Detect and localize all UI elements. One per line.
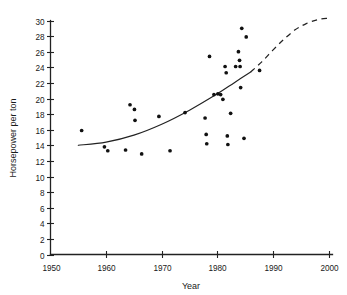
y-tick-label: 16 (35, 127, 45, 136)
data-point (157, 115, 161, 119)
data-point (133, 108, 137, 112)
y-tick-label: 26 (35, 49, 45, 58)
data-point (124, 148, 128, 152)
data-point (225, 134, 229, 138)
x-tick-label: 1980 (208, 264, 227, 273)
x-tick-label: 1990 (264, 264, 283, 273)
x-tick-label: 1970 (153, 264, 172, 273)
data-point (80, 129, 84, 133)
x-axis-tick-labels: 195019601970198019902000 (42, 264, 339, 273)
y-tick-label: 18 (35, 111, 45, 120)
y-tick-label: 0 (40, 252, 45, 261)
y-tick-label: 24 (35, 64, 45, 73)
data-point (168, 149, 172, 153)
chart-container: 024681012141618202224262830 195019601970… (0, 0, 347, 295)
y-tick-label: 4 (40, 220, 45, 229)
data-point (224, 71, 228, 75)
trend-line-projected (251, 18, 329, 72)
data-point (208, 55, 212, 59)
y-tick-label: 28 (35, 33, 45, 42)
data-point (242, 136, 246, 140)
y-axis-title: Horsepower per ton (8, 98, 18, 177)
data-point (238, 65, 242, 69)
data-point (103, 145, 107, 149)
data-point (205, 142, 209, 146)
data-point (238, 58, 242, 62)
y-axis-group: 024681012141618202224262830 (35, 18, 54, 261)
data-point (223, 65, 227, 69)
data-point (244, 35, 248, 39)
data-point (229, 111, 233, 115)
data-point (140, 152, 144, 156)
y-tick-label: 30 (35, 18, 45, 27)
data-point (106, 149, 110, 153)
y-tick-label: 8 (40, 189, 45, 198)
data-point-layer (80, 26, 262, 155)
data-point (203, 116, 207, 120)
x-axis-title: Year (182, 281, 200, 291)
trend-line-observed (78, 72, 250, 145)
y-tick-label: 14 (35, 142, 45, 151)
data-point (239, 86, 243, 90)
data-point (226, 143, 230, 147)
data-point (221, 97, 225, 101)
y-tick-label: 12 (35, 158, 45, 167)
data-point (234, 65, 238, 69)
y-tick-label: 6 (40, 205, 45, 214)
data-point (204, 133, 208, 137)
y-tick-label: 22 (35, 80, 45, 89)
x-axis-group: 195019601970198019902000 (42, 251, 339, 273)
data-point (219, 93, 223, 97)
y-tick-label: 2 (40, 236, 45, 245)
y-tick-label: 20 (35, 96, 45, 105)
data-point (133, 118, 137, 122)
y-axis-tick-labels: 024681012141618202224262830 (35, 18, 45, 261)
data-point (128, 103, 132, 107)
x-tick-label: 1950 (42, 264, 61, 273)
scatter-plot-figure: 024681012141618202224262830 195019601970… (0, 0, 347, 295)
data-point (258, 69, 262, 73)
data-point (240, 26, 244, 30)
x-tick-label: 2000 (320, 264, 339, 273)
data-point (183, 111, 187, 115)
x-tick-label: 1960 (97, 264, 116, 273)
y-tick-label: 10 (35, 174, 45, 183)
data-point (237, 50, 241, 54)
data-point (212, 93, 216, 97)
